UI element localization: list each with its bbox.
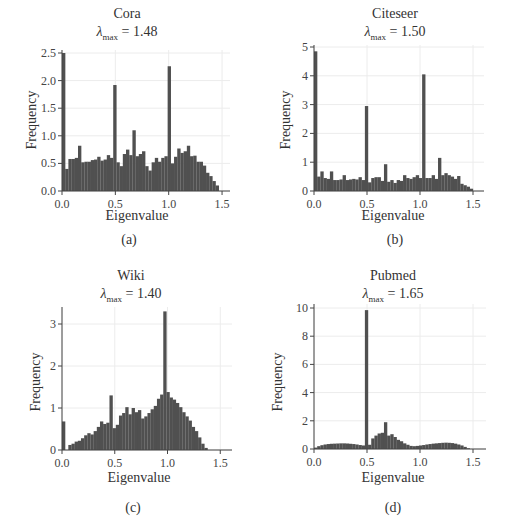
histogram-bar xyxy=(94,160,97,191)
histogram-bar xyxy=(320,445,323,449)
histogram-bar xyxy=(467,187,470,191)
y-axis-label: Frequency xyxy=(270,342,286,422)
histogram-bar xyxy=(200,162,203,191)
histogram-bar xyxy=(139,154,142,191)
histogram-bar xyxy=(126,150,129,191)
histogram-bar xyxy=(179,407,182,450)
histogram-bar xyxy=(349,444,352,449)
histogram-bar xyxy=(438,443,441,449)
x-tick-label: 1.5 xyxy=(213,456,228,470)
histogram-bar xyxy=(107,155,110,191)
histogram-bar xyxy=(158,162,161,191)
histogram-bar xyxy=(333,180,336,191)
histogram-bar xyxy=(166,392,169,450)
histogram-bar xyxy=(147,413,150,450)
histogram-bar xyxy=(132,130,135,191)
histogram-bar xyxy=(327,179,330,191)
histogram-bar xyxy=(428,178,431,191)
histogram-bar xyxy=(416,175,419,191)
histogram-bar xyxy=(463,185,466,191)
x-axis-label: Eigenvalue xyxy=(348,208,438,224)
histogram-bar xyxy=(355,444,358,449)
y-axis-label: Frequency xyxy=(278,80,294,160)
histogram-bar xyxy=(155,158,158,191)
y-tick-label: 3 xyxy=(50,317,56,331)
histogram-bar xyxy=(163,311,166,450)
histogram-bar xyxy=(390,434,393,449)
histogram-bar xyxy=(339,179,342,191)
histogram-bar xyxy=(419,178,422,191)
histogram-bar xyxy=(195,431,198,450)
x-tick-label: 0.0 xyxy=(55,456,70,470)
histogram-bar xyxy=(192,427,195,450)
x-tick-label: 1.5 xyxy=(215,197,230,211)
subfigure-caption: (d) xyxy=(266,500,509,516)
histogram-bar xyxy=(374,177,377,191)
histogram-bar xyxy=(343,443,346,449)
histogram-bar xyxy=(343,175,346,191)
histogram-bar xyxy=(160,395,163,450)
histogram-bar xyxy=(397,440,400,449)
histogram-bar xyxy=(448,175,451,191)
histogram-bar xyxy=(81,438,84,450)
histogram-bar xyxy=(104,160,107,191)
y-tick-label: 2 xyxy=(302,126,308,140)
histogram-bar xyxy=(65,169,68,191)
y-tick-label: 0 xyxy=(302,442,308,456)
histogram-bar xyxy=(184,151,187,191)
x-tick-label: 0.5 xyxy=(360,455,375,469)
histogram-bar xyxy=(180,153,183,191)
histogram-bar xyxy=(142,151,145,191)
subfigure-caption: (a) xyxy=(2,232,256,248)
histogram-bar xyxy=(109,395,112,450)
histogram-bar xyxy=(90,434,93,450)
y-tick-label: 0.5 xyxy=(41,156,56,170)
x-axis-label: Eigenvalue xyxy=(348,470,438,486)
histogram-bar xyxy=(359,177,362,191)
histogram-bar xyxy=(132,408,135,450)
histogram-bar xyxy=(78,441,81,450)
chart-panel-citeseer: Citeseer λmax = 1.50 0.00.51.01.5012345 … xyxy=(254,0,508,262)
histogram-bar xyxy=(352,179,355,191)
histogram-bar xyxy=(138,410,141,450)
y-tick-label: 10 xyxy=(296,301,308,315)
histogram-bar xyxy=(91,160,94,191)
histogram-bar xyxy=(403,443,406,449)
histogram-bar xyxy=(387,436,390,449)
histogram-bar xyxy=(110,158,113,191)
histogram-bar xyxy=(170,398,173,451)
chart-panel-pubmed: Pubmed λmax = 1.65 0.00.51.01.50246810 F… xyxy=(254,262,508,524)
histogram-bar xyxy=(68,445,71,450)
histogram-bar xyxy=(400,441,403,449)
histogram-bar xyxy=(193,156,196,191)
histogram-bar xyxy=(187,146,190,191)
histogram-bar xyxy=(87,433,90,450)
y-axis-label: Frequency xyxy=(28,342,44,422)
histogram-bar xyxy=(68,159,71,191)
histogram-bar xyxy=(359,445,362,449)
histogram-bar xyxy=(97,427,100,450)
histogram-bar xyxy=(145,166,148,191)
y-tick-label: 2.0 xyxy=(41,74,56,88)
histogram-bar xyxy=(460,184,463,191)
histogram-bar xyxy=(198,437,201,450)
x-axis-label: Eigenvalue xyxy=(94,470,184,486)
histogram-bar xyxy=(390,180,393,191)
histogram-bar xyxy=(438,158,441,191)
histogram-bar xyxy=(451,177,454,191)
histogram-bar xyxy=(72,444,75,450)
histogram-bar xyxy=(371,178,374,191)
histogram-bar xyxy=(381,433,384,449)
histogram-bar xyxy=(384,422,387,449)
x-tick-label: 1.5 xyxy=(466,197,481,211)
histogram-bar xyxy=(84,435,87,450)
histogram-bar xyxy=(129,155,132,191)
x-tick-label: 0.0 xyxy=(55,197,70,211)
histogram-bar xyxy=(189,421,192,450)
histogram-bar xyxy=(144,416,147,450)
histogram-bar xyxy=(422,74,425,191)
histogram-bar xyxy=(352,444,355,449)
histogram-bar xyxy=(135,412,138,450)
y-tick-label: 1 xyxy=(302,155,308,169)
histogram-bar xyxy=(409,179,412,191)
